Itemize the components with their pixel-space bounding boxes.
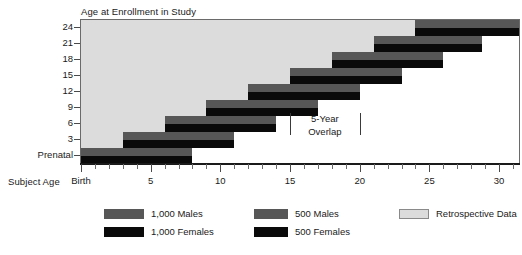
x-tick-minor bbox=[95, 164, 96, 169]
x-tick-label: 30 bbox=[469, 175, 522, 186]
x-tick-minor bbox=[248, 164, 249, 169]
cohort-bar-males bbox=[415, 20, 520, 28]
retrospective-block bbox=[81, 36, 374, 52]
y-tick-mark bbox=[74, 27, 80, 28]
x-tick-minor bbox=[304, 164, 305, 169]
y-tick: 21 bbox=[0, 37, 73, 49]
y-tick-mark bbox=[74, 107, 80, 108]
male-swatch bbox=[254, 209, 288, 219]
x-tick-minor bbox=[234, 164, 235, 169]
y-tick-label: 9 bbox=[68, 101, 73, 112]
x-tick-minor bbox=[471, 164, 472, 169]
x-tick-minor bbox=[192, 164, 193, 169]
cohort-bar-females bbox=[374, 44, 482, 52]
x-tick-minor bbox=[513, 164, 514, 169]
y-tick-label: 3 bbox=[68, 133, 73, 144]
legend-label: 500 Females bbox=[295, 224, 350, 240]
retrospective-block bbox=[81, 20, 415, 36]
x-tick-major bbox=[290, 164, 291, 172]
cohort-bar-males bbox=[290, 68, 401, 76]
y-tick-mark bbox=[74, 155, 80, 156]
y-tick-mark bbox=[74, 123, 80, 124]
x-tick-minor bbox=[346, 164, 347, 169]
retrospective-block bbox=[81, 116, 165, 132]
overlap-annotation: 5-Year Overlap bbox=[285, 113, 365, 138]
x-tick-label: 10 bbox=[190, 175, 250, 186]
y-tick: 15 bbox=[0, 69, 73, 81]
x-tick-major bbox=[151, 164, 152, 172]
plot-area bbox=[81, 19, 520, 163]
x-tick-major bbox=[81, 164, 82, 172]
legend-label: 1,000 Females bbox=[151, 224, 214, 240]
y-tick-mark bbox=[74, 91, 80, 92]
x-tick-label: Birth bbox=[51, 175, 111, 186]
cohort-bar-females bbox=[248, 92, 359, 100]
retrospective-block bbox=[81, 52, 332, 68]
y-tick-label: 6 bbox=[68, 117, 73, 128]
y-tick: 6 bbox=[0, 117, 73, 129]
x-tick-minor bbox=[457, 164, 458, 169]
y-tick-label: 18 bbox=[62, 53, 73, 64]
x-tick-minor bbox=[388, 164, 389, 169]
x-tick-minor bbox=[485, 164, 486, 169]
y-tick-mark bbox=[74, 43, 80, 44]
cohort-bar-males bbox=[165, 116, 276, 124]
y-tick: 9 bbox=[0, 101, 73, 113]
x-tick-minor bbox=[318, 164, 319, 169]
y-tick-mark bbox=[74, 59, 80, 60]
female-swatch bbox=[104, 227, 144, 237]
retrospective-block bbox=[81, 68, 290, 84]
x-tick-minor bbox=[374, 164, 375, 169]
x-tick-minor bbox=[206, 164, 207, 169]
y-tick-label: 24 bbox=[62, 21, 73, 32]
female-swatch bbox=[254, 227, 288, 237]
x-tick-minor bbox=[179, 164, 180, 169]
y-tick: 12 bbox=[0, 85, 73, 97]
y-tick-label: 12 bbox=[62, 85, 73, 96]
x-tick-label: 15 bbox=[260, 175, 320, 186]
x-tick-minor bbox=[137, 164, 138, 169]
y-tick-label: 21 bbox=[62, 37, 73, 48]
x-tick-label: 20 bbox=[330, 175, 390, 186]
male-swatch bbox=[104, 209, 144, 219]
retrospective-block bbox=[81, 84, 248, 100]
x-tick-label: 5 bbox=[121, 175, 181, 186]
cohort-bar-females bbox=[415, 28, 520, 36]
y-tick: 3 bbox=[0, 133, 73, 145]
x-tick-major bbox=[499, 164, 500, 172]
legend-label: 500 Males bbox=[295, 206, 339, 222]
x-tick-minor bbox=[332, 164, 333, 169]
x-tick-minor bbox=[123, 164, 124, 169]
cohort-bar-females bbox=[290, 76, 401, 84]
retro-swatch bbox=[399, 209, 429, 219]
x-tick-minor bbox=[415, 164, 416, 169]
x-tick-minor bbox=[262, 164, 263, 169]
x-tick-major bbox=[220, 164, 221, 172]
y-tick: 24 bbox=[0, 21, 73, 33]
y-tick-mark bbox=[74, 75, 80, 76]
cohort-bar-males bbox=[332, 52, 443, 60]
cohort-bar-males bbox=[206, 100, 317, 108]
overlap-line-1: 5-Year bbox=[285, 113, 365, 126]
y-tick: 18 bbox=[0, 53, 73, 65]
cohort-bar-males bbox=[81, 148, 192, 156]
x-tick-label: 25 bbox=[399, 175, 459, 186]
x-tick-minor bbox=[165, 164, 166, 169]
retrospective-block bbox=[81, 132, 123, 148]
retrospective-block bbox=[81, 100, 206, 116]
x-tick-minor bbox=[443, 164, 444, 169]
cohort-bar-males bbox=[123, 132, 234, 140]
y-axis-title: Age at Enrollment in Study bbox=[81, 6, 196, 17]
legend-label: Retrospective Data bbox=[436, 206, 517, 222]
x-axis-line bbox=[80, 163, 520, 165]
x-tick-major bbox=[429, 164, 430, 172]
cohort-bar-males bbox=[374, 36, 482, 44]
cohort-bar-females bbox=[123, 140, 234, 148]
cohort-bar-females bbox=[165, 124, 276, 132]
y-tick-label: Prenatal bbox=[38, 149, 73, 160]
y-tick-label: 15 bbox=[62, 69, 73, 80]
legend-label: 1,000 Males bbox=[151, 206, 203, 222]
accelerated-longitudinal-design-chart: Age at Enrollment in Study Subject Age 2… bbox=[0, 0, 522, 255]
y-tick: Prenatal bbox=[0, 149, 73, 161]
x-tick-minor bbox=[276, 164, 277, 169]
